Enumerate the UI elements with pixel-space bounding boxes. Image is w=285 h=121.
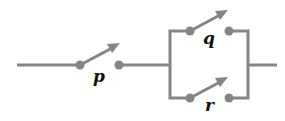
- parallel-right-rail: [229, 31, 248, 98]
- parallel-left-rail: [170, 31, 190, 98]
- switch-q-label: q: [203, 28, 215, 48]
- switch-r: r: [186, 77, 234, 115]
- switch-r-label: r: [205, 95, 215, 115]
- switch-p-label: p: [93, 66, 105, 86]
- switch-q: q: [186, 10, 234, 48]
- switch-p-lever: [82, 48, 112, 64]
- switch-p: p: [76, 43, 124, 86]
- circuit-diagram: p q r: [0, 0, 285, 121]
